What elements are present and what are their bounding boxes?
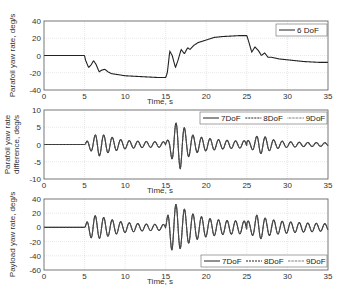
x-axis-label: Time, s [147, 186, 173, 195]
y-tick-label: 20 [32, 34, 41, 43]
y-tick-label: -5 [34, 158, 42, 167]
x-tick-label: 30 [283, 92, 292, 101]
legend: 6 DoF [276, 24, 327, 36]
x-tick-label: 35 [324, 181, 333, 190]
y-axis-label: Payload yaw rate, deg/s [8, 192, 17, 277]
x-tick-label: 0 [42, 272, 47, 281]
legend-label: 8DoF [264, 257, 284, 266]
y-tick-label: 0 [37, 141, 42, 150]
x-tick-label: 35 [324, 272, 333, 281]
legend-label: 7DoF [222, 257, 242, 266]
subplot-1: 05101520253035-40-2002040Time, sParafoil… [8, 14, 333, 106]
legend: 7DoF8DoF9DoF [200, 112, 327, 124]
x-tick-label: 25 [242, 92, 251, 101]
x-tick-label: 20 [202, 181, 211, 190]
x-tick-label: 5 [82, 181, 87, 190]
legend-label: 9DoF [306, 257, 326, 266]
x-tick-label: 25 [242, 181, 251, 190]
y-tick-label: -20 [29, 69, 41, 78]
x-tick-label: 5 [82, 272, 87, 281]
y-tick-label: 5 [37, 123, 42, 132]
y-tick-label: -20 [29, 238, 41, 247]
y-tick-label: 0 [37, 223, 42, 232]
y-tick-label: -40 [29, 86, 41, 95]
x-tick-label: 5 [82, 92, 87, 101]
x-tick-label: 30 [283, 181, 292, 190]
y-axis-label: difference, deg/s [12, 115, 21, 174]
y-tick-label: -60 [29, 266, 41, 275]
y-tick-label: 40 [32, 17, 41, 26]
x-tick-label: 20 [202, 92, 211, 101]
y-axis-label: Parafoil yaw rate, deg/s [8, 14, 17, 98]
subplot-3: 05101520253035-60-40-2002040Time, sPaylo… [8, 192, 333, 286]
y-axis-label: Parafoil yaw rate [3, 114, 12, 174]
x-axis-label: Time, s [147, 97, 173, 106]
x-tick-label: 20 [202, 272, 211, 281]
y-tick-label: 0 [37, 52, 42, 61]
y-tick-label: 20 [32, 209, 41, 218]
x-tick-label: 0 [42, 92, 47, 101]
y-tick-label: -40 [29, 252, 41, 261]
subplot-2: 05101520253035-10-50510Time, sParafoil y… [3, 106, 333, 195]
legend-label: 9DoF [306, 114, 326, 123]
legend-label: 8DoF [263, 114, 283, 123]
y-tick-label: -10 [29, 175, 41, 184]
legend: 7DoF8DoF9DoF [201, 255, 327, 267]
figure: 05101520253035-40-2002040Time, sParafoil… [0, 0, 342, 298]
legend-label: 7DoF [221, 114, 241, 123]
legend-label: 6 DoF [297, 26, 319, 35]
x-tick-label: 0 [42, 181, 47, 190]
x-tick-label: 25 [242, 272, 251, 281]
x-axis-label: Time, s [147, 277, 173, 286]
y-tick-label: 40 [32, 195, 41, 204]
x-tick-label: 10 [121, 92, 130, 101]
x-tick-label: 10 [121, 181, 130, 190]
x-tick-label: 10 [121, 272, 130, 281]
x-tick-label: 35 [324, 92, 333, 101]
x-tick-label: 30 [283, 272, 292, 281]
y-tick-label: 10 [32, 106, 41, 115]
